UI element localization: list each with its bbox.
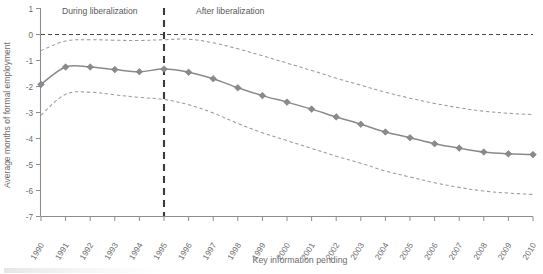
x-axis-title: Key information pending bbox=[253, 255, 348, 265]
y-tick-label: -2 bbox=[26, 83, 34, 92]
y-tick-label: -7 bbox=[26, 213, 34, 222]
chart-background bbox=[0, 0, 543, 274]
y-tick-label: -1 bbox=[26, 57, 34, 66]
annotation-after-liberalization: After liberalization bbox=[196, 6, 265, 16]
y-tick-label: -4 bbox=[26, 135, 34, 144]
y-axis-title: Average months of formal employment bbox=[2, 41, 12, 187]
chart-container: Average months of formal employment 1 0 … bbox=[0, 0, 543, 274]
y-tick-label: 0 bbox=[28, 31, 33, 40]
line-chart: Average months of formal employment 1 0 … bbox=[0, 0, 543, 274]
y-tick-label: -5 bbox=[26, 161, 34, 170]
y-tick-label: -6 bbox=[26, 187, 34, 196]
y-tick-label: 1 bbox=[28, 5, 33, 14]
y-tick-label: -3 bbox=[26, 109, 34, 118]
x-axis-ticks bbox=[41, 217, 533, 222]
annotation-during-liberalization: During liberalization bbox=[62, 6, 138, 16]
